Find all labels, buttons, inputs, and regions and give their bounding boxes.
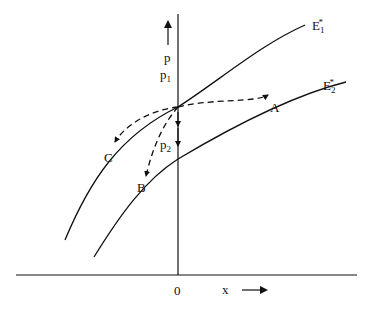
curve-e1-label: E1* bbox=[290, 18, 323, 35]
diagram-svg bbox=[0, 0, 372, 310]
path-b-label: B bbox=[137, 181, 146, 194]
curve-e2 bbox=[94, 82, 346, 257]
diagram-canvas: p p1 p2 E1* E2* A B C 0 x bbox=[0, 0, 372, 310]
origin-label: 0 bbox=[174, 284, 181, 297]
curve-e2-label: E2* bbox=[323, 78, 334, 95]
point-p1-label: p1 bbox=[160, 68, 171, 84]
p1-sub: 1 bbox=[167, 74, 172, 84]
e1-sup: * bbox=[318, 17, 323, 27]
curve-e1 bbox=[65, 25, 305, 240]
x-axis-label: x bbox=[222, 283, 229, 296]
path-a-label: A bbox=[270, 101, 279, 114]
path-c-label: C bbox=[104, 151, 113, 164]
y-axis-label: p bbox=[164, 51, 171, 64]
e2-sup: * bbox=[329, 77, 334, 87]
dashed-path-a bbox=[178, 95, 268, 107]
point-p2-label: p2 bbox=[160, 138, 171, 154]
p2-sub: 2 bbox=[167, 144, 172, 154]
